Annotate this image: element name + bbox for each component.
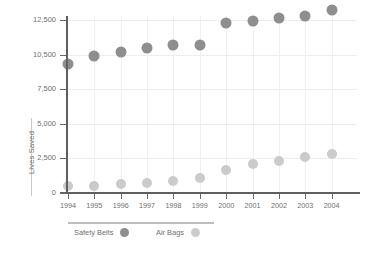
data-point-marker[interactable] (247, 16, 258, 27)
y-axis-tick-label: 7,500 (10, 84, 56, 93)
data-point-marker[interactable] (63, 181, 73, 191)
gridline-horizontal (67, 20, 357, 21)
legend-swatch-safety-belts-icon (120, 228, 129, 237)
data-point-marker[interactable] (142, 42, 153, 53)
x-axis-tick (305, 194, 306, 199)
y-axis-tick-label: 0 (10, 188, 56, 197)
y-axis-tick (60, 193, 66, 194)
data-point-marker[interactable] (63, 58, 74, 69)
gridline-horizontal (67, 124, 357, 125)
y-axis-tick-label: 2,500 (10, 153, 56, 162)
gridline-vertical (121, 16, 122, 193)
data-point-marker[interactable] (116, 179, 126, 189)
data-point-marker[interactable] (274, 156, 284, 166)
x-axis-tick (147, 194, 148, 199)
y-axis-tick-label: 10,500 (10, 50, 56, 59)
plot-area (67, 16, 357, 193)
y-axis-tick (60, 124, 66, 125)
x-axis-line (60, 192, 360, 194)
data-point-marker[interactable] (195, 173, 205, 183)
gridline-vertical (94, 16, 95, 193)
y-axis-tick (60, 20, 66, 21)
y-axis-line (66, 16, 68, 194)
gridline-vertical (279, 16, 280, 193)
data-point-marker[interactable] (248, 159, 258, 169)
data-point-marker[interactable] (89, 181, 99, 191)
x-axis-tick-label: 2004 (312, 201, 352, 210)
x-axis-tick (121, 194, 122, 199)
data-point-marker[interactable] (89, 51, 100, 62)
y-axis-tick (60, 158, 66, 159)
data-point-marker[interactable] (194, 40, 205, 51)
y-axis-tick (60, 55, 66, 56)
data-point-marker[interactable] (221, 17, 232, 28)
data-point-marker[interactable] (221, 165, 231, 175)
data-point-marker[interactable] (273, 13, 284, 24)
gridline-horizontal (67, 55, 357, 56)
gridline-horizontal (67, 89, 357, 90)
chart-container: Lives Saved 02,5005,0007,50010,50012,500… (0, 0, 374, 255)
x-axis-tick (68, 194, 69, 199)
x-axis-tick (226, 194, 227, 199)
legend-rule (68, 222, 214, 224)
gridline-horizontal (67, 158, 357, 159)
data-point-marker[interactable] (326, 4, 337, 15)
legend-label-safety-belts: Safety Belts (74, 228, 113, 237)
legend-item-safety-belts[interactable]: Safety Belts (74, 228, 129, 237)
legend-label-air-bags: Air Bags (156, 228, 184, 237)
y-axis-tick-label: 5,000 (10, 119, 56, 128)
gridline-vertical (305, 16, 306, 193)
data-point-marker[interactable] (115, 47, 126, 58)
gridline-vertical (332, 16, 333, 193)
x-axis-tick (332, 194, 333, 199)
y-axis-tick-label: 12,500 (10, 15, 56, 24)
legend-item-air-bags[interactable]: Air Bags (156, 228, 200, 237)
x-axis-tick (279, 194, 280, 199)
data-point-marker[interactable] (142, 178, 152, 188)
data-point-marker[interactable] (168, 40, 179, 51)
data-point-marker[interactable] (300, 152, 310, 162)
y-axis-tick (60, 89, 66, 90)
legend-swatch-air-bags-icon (191, 228, 200, 237)
data-point-marker[interactable] (327, 149, 337, 159)
x-axis-tick (94, 194, 95, 199)
data-point-marker[interactable] (168, 176, 178, 186)
x-axis-tick (253, 194, 254, 199)
x-axis-tick (173, 194, 174, 199)
data-point-marker[interactable] (300, 10, 311, 21)
x-axis-tick (200, 194, 201, 199)
